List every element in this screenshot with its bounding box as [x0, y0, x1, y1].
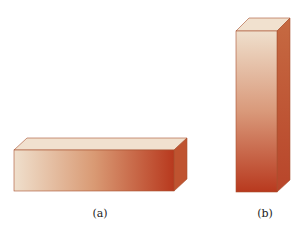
bars-diagram: [0, 0, 303, 231]
panel-label-b: (b): [250, 207, 280, 220]
bar-b-side-face: [277, 18, 290, 192]
bar-a: [14, 138, 187, 191]
bar-b: [236, 18, 290, 192]
bar-a-top-face: [14, 138, 187, 150]
bar-b-front-face: [236, 31, 277, 192]
panel-label-a: (a): [85, 207, 115, 220]
bar-a-front-face: [14, 150, 174, 191]
